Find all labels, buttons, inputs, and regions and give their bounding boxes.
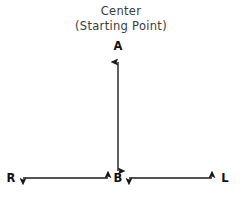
diagram-canvas: Center (Starting Point) A B R L: [0, 0, 242, 200]
node-label-a: A: [108, 40, 128, 52]
node-label-l: L: [216, 172, 234, 184]
node-label-r: R: [2, 172, 20, 184]
arrow-group: [0, 0, 242, 200]
node-label-b: B: [108, 172, 128, 184]
